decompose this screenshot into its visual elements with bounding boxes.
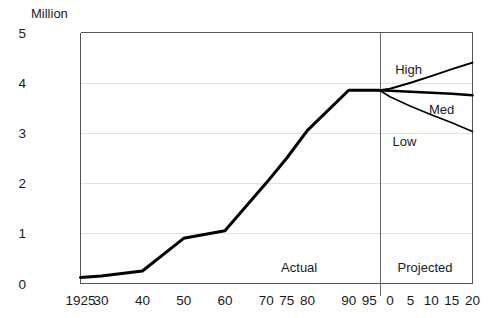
x-tick-label-1925: 1925 [65, 293, 95, 308]
series-line-med [380, 90, 473, 95]
x-tick-label-75: 75 [279, 293, 294, 308]
x-tick-label-0: 0 [386, 293, 394, 308]
y-axis-unit-label: Million [31, 6, 68, 21]
x-tick-label-50: 50 [176, 293, 191, 308]
annotation-low: Low [392, 134, 416, 149]
y-tick-label-2: 2 [18, 176, 26, 191]
y-tick-label-3: 3 [18, 126, 26, 141]
gridlines [81, 84, 473, 234]
chart-container: 012345 192530405060707580909505101520 Hi… [0, 0, 491, 318]
series-label-med: Med [429, 102, 454, 117]
annotation-projected: Projected [398, 260, 453, 275]
x-tick-label-70: 70 [259, 293, 274, 308]
annotation-actual: Actual [281, 260, 317, 275]
x-tick-label-90: 90 [341, 293, 356, 308]
series-line-low [380, 90, 473, 131]
series-line-high [380, 63, 473, 91]
x-tick-label-60: 60 [217, 293, 232, 308]
y-axis-tick-labels: 012345 [18, 26, 26, 292]
chart-annotations: ActualProjectedLow [281, 134, 452, 274]
y-tick-label-5: 5 [18, 26, 26, 41]
y-tick-label-1: 1 [18, 226, 26, 241]
x-tick-label-40: 40 [135, 293, 150, 308]
x-tick-label-10: 10 [424, 293, 439, 308]
x-tick-label-80: 80 [300, 293, 315, 308]
series-label-high: High [395, 62, 422, 77]
x-tick-label-20: 20 [465, 293, 480, 308]
y-tick-label-0: 0 [18, 277, 26, 292]
x-tick-label-95: 95 [362, 293, 377, 308]
y-tick-label-4: 4 [18, 76, 26, 91]
population-projection-line-chart: 012345 192530405060707580909505101520 Hi… [0, 0, 491, 318]
series-lines [81, 63, 473, 278]
x-tick-label-15: 15 [444, 293, 459, 308]
x-tick-label-30: 30 [94, 293, 109, 308]
x-tick-label-5: 5 [407, 293, 415, 308]
x-axis-tick-labels: 192530405060707580909505101520 [65, 293, 480, 308]
